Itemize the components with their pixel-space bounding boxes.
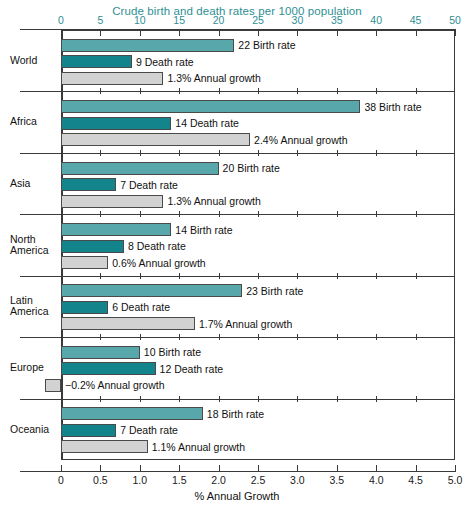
group-separator-tick xyxy=(219,273,220,279)
group-separator xyxy=(20,91,61,92)
group-separator-tick xyxy=(337,211,338,217)
bottom-axis-tick-label: 5.0 xyxy=(448,474,463,486)
group-label-line: World xyxy=(10,54,37,66)
bottom-axis-tick xyxy=(297,465,298,472)
bar-birth xyxy=(61,407,203,420)
bar-growth xyxy=(61,317,195,330)
chart-title: Crude birth and death rates per 1000 pop… xyxy=(0,5,474,17)
group-label-line: Asia xyxy=(10,177,30,189)
group-separator xyxy=(20,276,61,277)
group-separator-tick xyxy=(258,211,259,217)
top-axis-tick-label: 25 xyxy=(252,14,264,26)
top-axis-tick xyxy=(455,29,456,36)
bar-growth xyxy=(61,72,163,85)
group-label-line: Europe xyxy=(10,361,44,373)
group-separator-tick xyxy=(140,211,141,217)
top-axis-tick-label: 45 xyxy=(410,14,422,26)
group-separator-tick xyxy=(297,273,298,279)
bar-death xyxy=(61,240,124,253)
bottom-axis-tick xyxy=(100,465,101,472)
group-separator-tick xyxy=(179,334,180,340)
group-separator-tick xyxy=(140,150,141,156)
group-separator-tick xyxy=(416,273,417,279)
bottom-axis-tick xyxy=(416,465,417,472)
group-separator-tick xyxy=(219,88,220,94)
bar-birth xyxy=(61,162,219,175)
group-separator-tick xyxy=(140,273,141,279)
bar-value-label: 7 Death rate xyxy=(120,424,178,436)
group-label-world: World xyxy=(10,55,60,67)
group-separator-tick xyxy=(140,88,141,94)
group-separator-tick xyxy=(416,150,417,156)
bar-death xyxy=(61,178,116,191)
bottom-axis-tick-label: 0 xyxy=(58,474,64,486)
bottom-axis-tick-label: 2.5 xyxy=(251,474,266,486)
bar-value-label: 8 Death rate xyxy=(128,240,186,252)
bar-value-label: 0.6% Annual growth xyxy=(112,257,205,269)
group-separator-tick xyxy=(416,211,417,217)
group-label-europe: Europe xyxy=(10,362,60,374)
group-separator-tick xyxy=(376,150,377,156)
bar-value-label: 20 Birth rate xyxy=(223,162,280,174)
group-label-line: North xyxy=(10,233,36,245)
group-separator-tick xyxy=(376,88,377,94)
bottom-axis-line xyxy=(20,471,455,472)
bottom-axis-tick xyxy=(455,465,456,472)
group-separator-tick xyxy=(337,273,338,279)
group-label-north-america: NorthAmerica xyxy=(10,234,60,257)
group-separator-tick xyxy=(179,211,180,217)
group-separator-tick xyxy=(100,88,101,94)
group-separator-tick xyxy=(297,150,298,156)
group-separator-tick xyxy=(297,396,298,402)
group-separator-tick xyxy=(100,273,101,279)
group-separator-tick xyxy=(140,334,141,340)
bar-birth xyxy=(61,223,171,236)
group-separator xyxy=(20,399,61,400)
top-axis-tick-label: 35 xyxy=(331,14,343,26)
bar-birth xyxy=(61,346,140,359)
group-separator-tick xyxy=(100,211,101,217)
group-label-oceania: Oceania xyxy=(10,424,60,436)
group-separator-tick xyxy=(179,396,180,402)
group-separator-tick xyxy=(376,334,377,340)
bottom-axis-tick xyxy=(140,465,141,472)
group-separator-tick xyxy=(258,334,259,340)
bar-value-label: 1.3% Annual growth xyxy=(167,72,260,84)
bar-death xyxy=(61,424,116,437)
group-separator-tick xyxy=(416,88,417,94)
top-axis-tick-label: 10 xyxy=(134,14,146,26)
bar-growth xyxy=(61,195,163,208)
bottom-axis-tick-label: 4.5 xyxy=(408,474,423,486)
group-separator-tick xyxy=(337,150,338,156)
group-separator-tick xyxy=(219,150,220,156)
bar-value-label: 23 Birth rate xyxy=(246,285,303,297)
group-label-line: America xyxy=(10,305,49,317)
bar-value-label: 1.3% Annual growth xyxy=(167,195,260,207)
group-separator-tick xyxy=(140,396,141,402)
bar-death xyxy=(61,117,171,130)
bottom-axis-tick xyxy=(61,465,62,472)
bar-value-label: 9 Death rate xyxy=(136,56,194,68)
bar-growth xyxy=(61,133,250,146)
bar-value-label: 6 Death rate xyxy=(112,301,170,313)
group-separator xyxy=(20,337,61,338)
group-separator-tick xyxy=(179,88,180,94)
bar-growth xyxy=(61,256,108,269)
bar-birth xyxy=(61,39,234,52)
bar-value-label: 14 Death rate xyxy=(175,117,239,129)
group-separator-tick xyxy=(179,273,180,279)
group-separator-tick xyxy=(416,396,417,402)
group-separator-tick xyxy=(258,88,259,94)
group-separator-tick xyxy=(179,150,180,156)
bar-value-label: 1.7% Annual growth xyxy=(199,318,292,330)
bottom-axis-tick-label: 2.0 xyxy=(211,474,226,486)
bar-birth xyxy=(61,100,360,113)
group-separator-tick xyxy=(219,211,220,217)
bar-value-label: 10 Birth rate xyxy=(144,346,201,358)
bar-value-label: 2.4% Annual growth xyxy=(254,134,347,146)
top-axis-tick-label: 40 xyxy=(370,14,382,26)
group-separator xyxy=(20,214,61,215)
group-separator xyxy=(20,153,61,154)
top-axis-tick-label: 30 xyxy=(292,14,304,26)
bottom-axis-tick-label: 4.0 xyxy=(369,474,384,486)
